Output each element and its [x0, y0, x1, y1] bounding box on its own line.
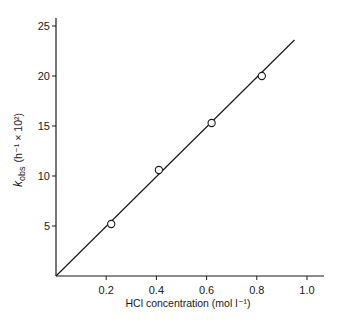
y-tick-label: 15 — [38, 120, 50, 132]
svg-text:kobs(h⁻¹ × 10²): kobs(h⁻¹ × 10²) — [11, 113, 27, 187]
y-label-subscript: obs — [17, 166, 27, 181]
y-tick-label: 10 — [38, 170, 50, 182]
x-tick-label: 0.4 — [149, 284, 164, 296]
y-tick-label: 20 — [38, 70, 50, 82]
y-label-units: (h⁻¹ × 10²) — [12, 113, 24, 162]
y-ticks: 510152025 — [38, 20, 56, 232]
data-points — [108, 72, 266, 227]
x-tick-label: 0.8 — [249, 284, 264, 296]
y-tick-label: 5 — [44, 220, 50, 232]
y-tick-label: 25 — [38, 20, 50, 32]
x-ticks: 0.20.40.60.81.0 — [99, 276, 315, 296]
x-tick-label: 1.0 — [299, 284, 314, 296]
data-point-circle-icon — [258, 72, 265, 79]
data-point-circle-icon — [155, 166, 162, 173]
x-axis-label: HCl concentration (mol l⁻¹) — [125, 297, 250, 309]
x-tick-label: 0.6 — [199, 284, 214, 296]
x-tick-label: 0.2 — [99, 284, 114, 296]
y-axis-label: kobs(h⁻¹ × 10²) — [11, 113, 27, 187]
data-point-circle-icon — [108, 220, 115, 227]
chart: 510152025 0.20.40.60.81.0 HCl concentrat… — [0, 0, 345, 324]
data-point-circle-icon — [208, 119, 215, 126]
